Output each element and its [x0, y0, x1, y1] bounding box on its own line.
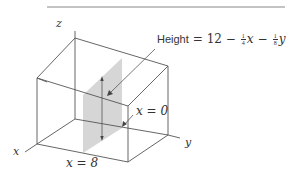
fraction-quarter: 14: [241, 33, 246, 46]
x-axis: [25, 144, 37, 152]
box-edge: [37, 119, 75, 144]
x-equals-0-label: x = 0: [136, 105, 168, 117]
box-edge: [37, 38, 75, 78]
box-diagram-svg: [0, 0, 289, 174]
leader-arrow-icon: [122, 121, 127, 127]
fraction-eighth: 18: [273, 33, 278, 46]
box-edge: [37, 78, 47, 82]
var-x: x: [247, 32, 254, 46]
height-formula-label: Height = 12 − 14x − 18y: [157, 30, 285, 46]
minus-sign: −: [258, 32, 268, 46]
box-edge: [128, 66, 168, 106]
y-axis-label: y: [185, 137, 191, 148]
box-edge: [128, 135, 168, 162]
x-equals-8-label: x = 8: [66, 157, 98, 169]
y-axis: [168, 135, 180, 138]
z-axis-label: z: [56, 18, 62, 29]
x-axis-label: x: [13, 146, 19, 157]
height-equals: = 12 −: [193, 32, 236, 46]
diagram-figure: z x y Height = 12 − 14x − 18y x = 0 x = …: [0, 0, 289, 174]
height-word: Height: [157, 33, 189, 45]
x0-leader-line: [125, 115, 133, 124]
var-y: y: [279, 32, 286, 46]
